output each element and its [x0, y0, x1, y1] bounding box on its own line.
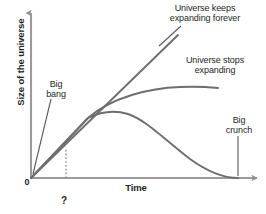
cosmology-expansion-chart: Universe keeps expanding forever Univers…: [0, 0, 266, 214]
leader-big-bang: [33, 99, 51, 174]
x-axis-label: Time: [108, 183, 164, 193]
annotation-big-bang: Big bang: [36, 80, 76, 99]
question-mark-label: ?: [56, 196, 72, 207]
annotation-keeps-expanding: Universe keeps expanding forever: [145, 4, 265, 23]
annotation-big-crunch: Big crunch: [216, 116, 262, 135]
origin-label: 0: [20, 178, 34, 188]
y-axis-label: Size of the universe: [16, 10, 26, 114]
curve-big-crunch: [31, 112, 238, 178]
curve-stops-expanding: [31, 87, 218, 178]
annotation-stops-expanding: Universe stops expanding: [167, 56, 263, 75]
